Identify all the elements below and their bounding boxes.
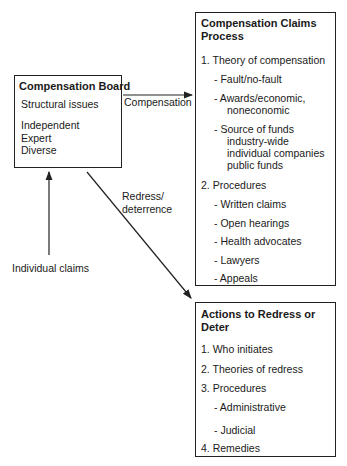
- redress-item: - Administrative: [214, 401, 286, 413]
- redress-item: - Judicial: [214, 424, 255, 436]
- claims-item: - Written claims: [214, 198, 286, 210]
- claims-title: Compensation Claims: [201, 17, 317, 29]
- claims-item: individual companies: [227, 147, 324, 159]
- claims-item: - Lawyers: [214, 254, 260, 266]
- claims-item: - Fault/no-fault: [214, 73, 282, 85]
- redress-box: Actions to Redress or Deter 1. Who initi…: [195, 302, 336, 457]
- redress-item: 2. Theories of redress: [201, 363, 303, 375]
- claims-section-label: 1. Theory of compensation: [201, 54, 325, 66]
- claims-item: - Awards/economic,: [214, 92, 305, 104]
- claims-item: noneconomic: [227, 104, 289, 116]
- claims-section-label: 2. Procedures: [201, 179, 266, 191]
- claims-item: - Health advocates: [214, 235, 302, 247]
- redress-item: 3. Procedures: [201, 382, 266, 394]
- claims-item: - Appeals: [214, 272, 258, 284]
- individual-claims-label: Individual claims: [12, 262, 89, 274]
- claims-item: industry-wide: [227, 135, 289, 147]
- redress-label: deterrence: [122, 203, 172, 215]
- redress-item: 4. Remedies: [201, 442, 260, 454]
- board-item: Diverse: [21, 144, 57, 156]
- board-item: Structural issues: [21, 98, 99, 110]
- board-title: Compensation Board: [19, 80, 130, 92]
- redress-item: 1. Who initiates: [201, 343, 273, 355]
- claims-item: - Open hearings: [214, 217, 289, 229]
- board-item: Expert: [21, 132, 51, 144]
- claims-title: Process: [201, 30, 244, 42]
- redress-title: Actions to Redress or: [201, 308, 315, 320]
- redress-label: Redress/: [122, 190, 164, 202]
- claims-item: public funds: [227, 159, 283, 171]
- board-item: Independent: [21, 119, 79, 131]
- claims-item: - Source of funds: [214, 123, 294, 135]
- redress-title: Deter: [201, 321, 229, 333]
- compensation-label: Compensation: [124, 96, 192, 108]
- claims-process-box: Compensation Claims Process 1. Theory of…: [195, 12, 336, 286]
- compensation-board-box: Compensation Board Structural issues Ind…: [14, 75, 122, 168]
